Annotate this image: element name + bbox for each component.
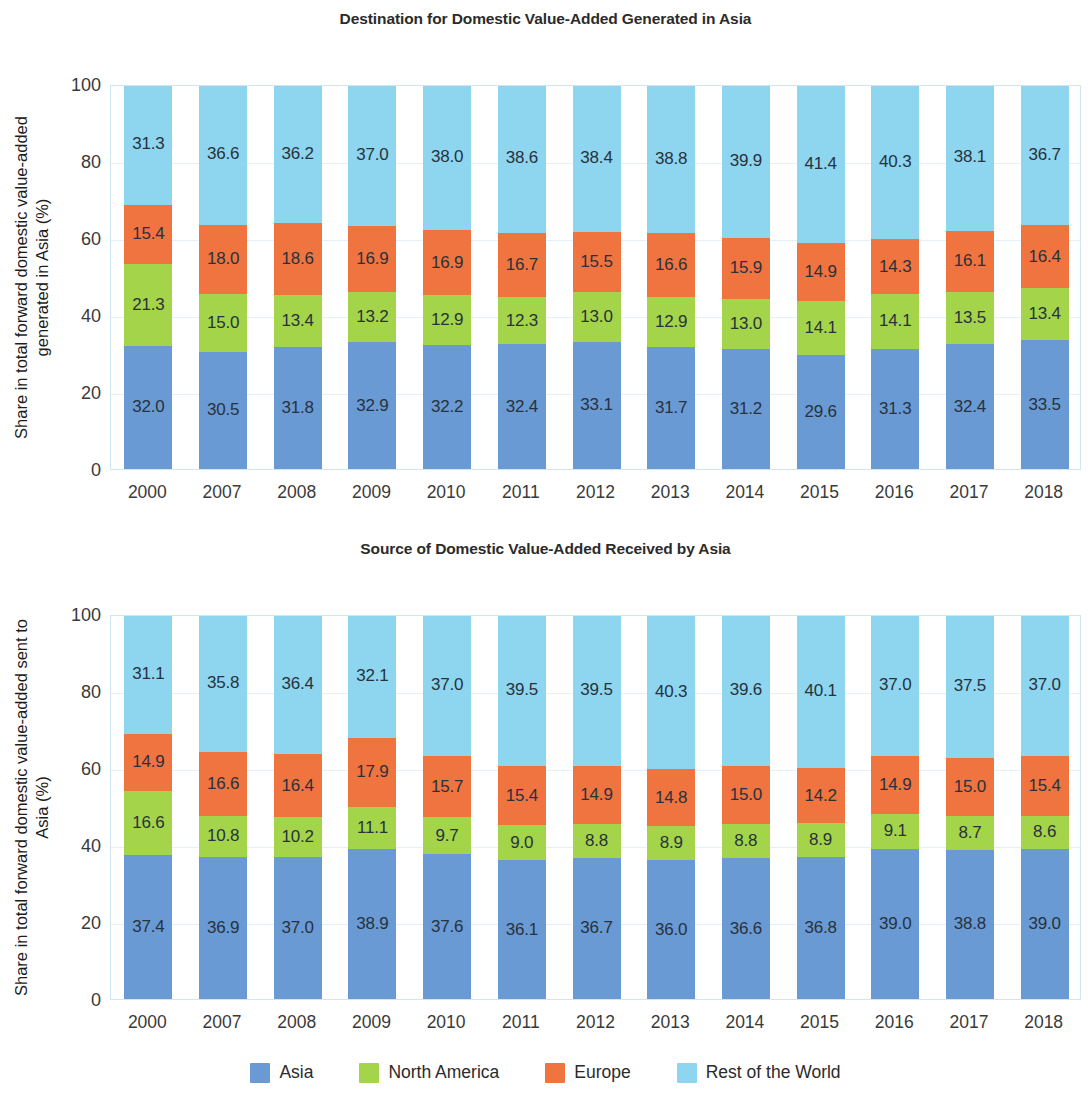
bar-segment: 8.9 (797, 823, 845, 857)
bar-segment: 16.9 (348, 226, 396, 291)
bar-segment: 37.5 (946, 615, 994, 758)
bar-value-label: 14.8 (655, 788, 687, 808)
bar-segment: 40.3 (871, 85, 919, 239)
bar-segment: 29.6 (797, 355, 845, 469)
bar-value-label: 15.0 (207, 313, 239, 333)
bar-segment: 31.8 (274, 347, 322, 469)
bar-value-label: 14.3 (879, 257, 911, 277)
bar-value-label: 38.8 (954, 914, 986, 934)
bar-segment: 16.1 (946, 231, 994, 293)
stacked-bar: 31.213.015.939.9 (722, 85, 770, 469)
bar-value-label: 36.7 (580, 918, 612, 938)
bar-value-label: 12.9 (655, 312, 687, 332)
bar-value-label: 10.2 (282, 827, 314, 847)
bar-segment: 33.1 (573, 342, 621, 469)
bar-segment: 16.4 (274, 754, 322, 817)
bar-value-label: 8.9 (809, 830, 832, 850)
bar-segment: 10.8 (199, 816, 247, 858)
bar-value-label: 33.5 (1028, 395, 1060, 415)
bar-segment: 8.8 (573, 824, 621, 858)
bar-value-label: 39.6 (730, 680, 762, 700)
x-tick-label: 2008 (277, 482, 316, 503)
bar-value-label: 29.6 (804, 402, 836, 422)
bar-segment: 13.4 (274, 295, 322, 347)
bar-segment: 36.0 (647, 860, 695, 999)
bar-segment: 14.2 (797, 768, 845, 823)
bar-segment: 37.0 (871, 615, 919, 756)
x-tick-label: 2011 (502, 1012, 540, 1033)
y-tick-label: 0 (57, 460, 101, 481)
y-tick-label: 100 (57, 75, 101, 96)
bar-value-label: 31.8 (282, 398, 314, 418)
y-axis-label-bottom: Share in total forward domestic value-ad… (8, 615, 56, 1000)
bar-segment: 39.0 (1021, 849, 1069, 999)
y-tick-label: 60 (57, 229, 101, 250)
bar-value-label: 32.2 (431, 397, 463, 417)
bar-segment: 38.4 (573, 85, 621, 232)
bar-segment: 38.9 (348, 849, 396, 999)
bar-segment: 14.9 (573, 766, 621, 823)
bar-value-label: 36.7 (1028, 145, 1060, 165)
chart-legend: AsiaNorth AmericaEuropeRest of the World (0, 1062, 1091, 1083)
chart-block-top: Destination for Domestic Value-Added Gen… (0, 0, 1091, 510)
bar-segment: 16.9 (423, 230, 471, 295)
legend-label: Europe (574, 1062, 630, 1083)
stacked-bar: 36.910.816.635.8 (199, 615, 247, 999)
bar-value-label: 16.6 (655, 255, 687, 275)
bar-segment: 37.0 (1021, 615, 1069, 756)
bar-value-label: 31.7 (655, 398, 687, 418)
bar-value-label: 39.0 (1028, 914, 1060, 934)
bar-value-label: 15.4 (132, 224, 164, 244)
bar-segment: 38.8 (647, 85, 695, 233)
bar-segment: 32.9 (348, 342, 396, 469)
x-tick-label: 2014 (725, 1012, 764, 1033)
y-tick-label: 80 (57, 152, 101, 173)
bar-value-label: 38.6 (506, 148, 538, 168)
bar-segment: 39.5 (498, 615, 546, 766)
bar-value-label: 16.4 (1028, 247, 1060, 267)
bar-segment: 38.0 (423, 85, 471, 230)
bar-segment: 36.8 (797, 857, 845, 999)
bar-segment: 11.1 (348, 807, 396, 850)
x-tick-label: 2007 (203, 482, 242, 503)
bar-value-label: 32.0 (132, 397, 164, 417)
bar-value-label: 18.6 (282, 249, 314, 269)
bar-value-label: 30.5 (207, 400, 239, 420)
bar-segment: 32.0 (124, 346, 172, 469)
x-tick-label: 2012 (576, 482, 615, 503)
legend-item: Rest of the World (677, 1062, 841, 1083)
bar-value-label: 11.1 (357, 818, 388, 838)
plot-area-top: Share in total forward domestic value-ad… (0, 0, 1091, 510)
bar-value-label: 40.3 (655, 682, 687, 702)
bar-segment: 13.0 (722, 299, 770, 349)
bar-segment: 36.7 (573, 858, 621, 999)
bar-segment: 30.5 (199, 352, 247, 469)
bar-segment: 36.2 (274, 85, 322, 223)
bar-value-label: 15.0 (954, 777, 986, 797)
bar-value-label: 14.1 (879, 311, 911, 331)
bar-segment: 15.5 (573, 232, 621, 292)
bar-value-label: 32.4 (954, 397, 986, 417)
bar-segment: 37.0 (348, 85, 396, 226)
bar-segment: 31.7 (647, 347, 695, 469)
bar-segment: 15.0 (722, 766, 770, 824)
bar-value-label: 8.9 (660, 833, 683, 853)
bar-segment: 36.4 (274, 615, 322, 754)
figure-root: Destination for Domestic Value-Added Gen… (0, 0, 1091, 1100)
bar-value-label: 16.1 (954, 251, 986, 271)
bar-value-label: 16.9 (356, 249, 388, 269)
bar-value-label: 8.6 (1033, 822, 1056, 842)
stacked-bar: 31.314.114.340.3 (871, 85, 919, 469)
bar-value-label: 10.8 (207, 826, 239, 846)
bar-segment: 15.9 (722, 238, 770, 299)
bar-value-label: 16.4 (282, 776, 314, 796)
plot-canvas-bottom: 37.416.614.931.136.910.816.635.837.010.2… (110, 615, 1081, 1000)
bar-value-label: 37.5 (954, 676, 986, 696)
stacked-bar: 36.78.814.939.5 (573, 615, 621, 999)
bar-value-label: 37.4 (132, 917, 164, 937)
x-tick-label: 2011 (502, 482, 540, 503)
bar-segment: 39.5 (573, 615, 621, 766)
legend-swatch-north-america (359, 1063, 379, 1083)
x-tick-label: 2000 (128, 1012, 167, 1033)
x-tick-label: 2008 (277, 1012, 316, 1033)
